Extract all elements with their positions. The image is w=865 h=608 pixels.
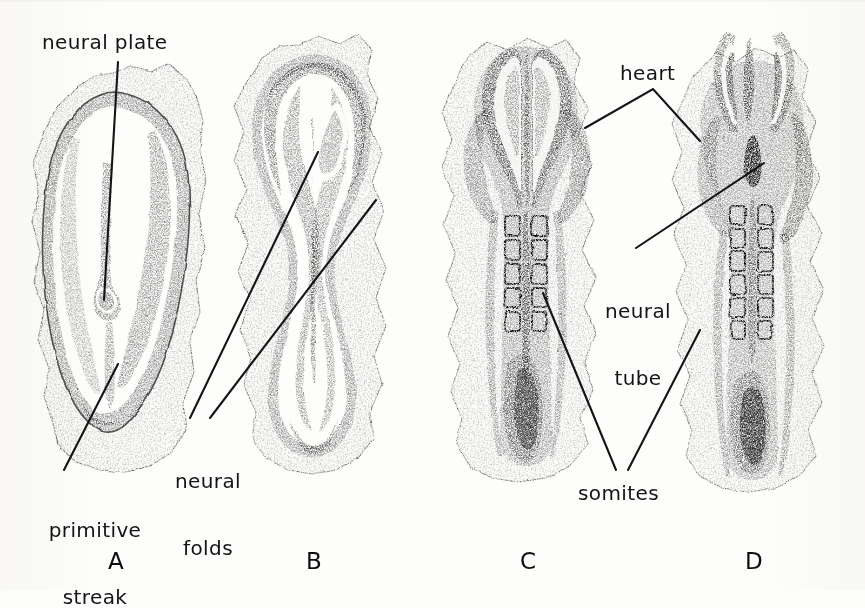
panel-letter-a: A xyxy=(108,548,124,574)
panel-b-drawing xyxy=(234,34,386,474)
label-neural-plate: neural plate xyxy=(42,31,168,53)
panel-letter-b: B xyxy=(306,548,322,574)
panel-letter-c: C xyxy=(520,548,537,574)
panel-d-drawing xyxy=(672,32,824,492)
panel-c-drawing xyxy=(442,38,596,482)
label-neural-folds: neural folds xyxy=(148,425,268,582)
label-primitive-streak-line2: streak xyxy=(20,586,170,608)
label-somites: somites xyxy=(578,482,659,504)
label-neural-tube: neural tube xyxy=(583,255,693,412)
label-neural-tube-line2: tube xyxy=(583,367,693,389)
label-neural-tube-line1: neural xyxy=(583,300,693,322)
label-heart: heart xyxy=(620,62,675,84)
label-neural-folds-line1: neural xyxy=(148,470,268,492)
label-neural-folds-line2: folds xyxy=(148,537,268,559)
panel-letter-d: D xyxy=(745,548,763,574)
panel-a-drawing xyxy=(32,64,206,472)
